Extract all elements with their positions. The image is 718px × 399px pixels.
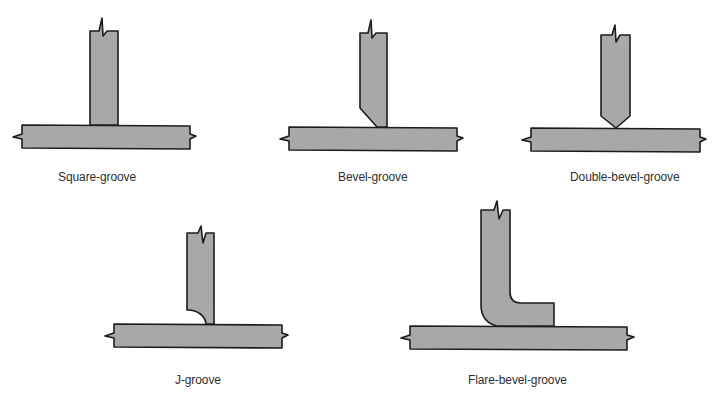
j-groove-vertical-member: [187, 226, 214, 324]
double-bevel-groove-label: Double-bevel-groove: [570, 170, 680, 184]
flare-bevel-groove-label: Flare-bevel-groove: [468, 373, 567, 387]
double-bevel-groove-joint: [522, 25, 706, 152]
square-groove-label: Square-groove: [58, 170, 136, 184]
groove-weld-tee-joints-figure: [0, 0, 718, 399]
bevel-groove-base-plate: [280, 127, 463, 151]
j-groove-label: J-groove: [175, 373, 221, 387]
bevel-groove-joint: [280, 20, 463, 151]
j-groove-base-plate: [105, 324, 288, 348]
bevel-groove-vertical-member: [360, 20, 387, 127]
j-groove-joint: [105, 226, 288, 348]
square-groove-joint: [13, 18, 196, 149]
flare-bevel-groove-base-plate: [401, 326, 634, 350]
flare-bevel-groove-joint: [401, 201, 634, 350]
square-groove-base-plate: [13, 125, 196, 149]
double-bevel-groove-base-plate: [522, 128, 706, 152]
flare-bevel-groove-angle-member: [481, 201, 554, 326]
double-bevel-groove-vertical-member: [601, 25, 630, 128]
square-groove-vertical-member: [90, 18, 118, 125]
bevel-groove-label: Bevel-groove: [338, 170, 408, 184]
